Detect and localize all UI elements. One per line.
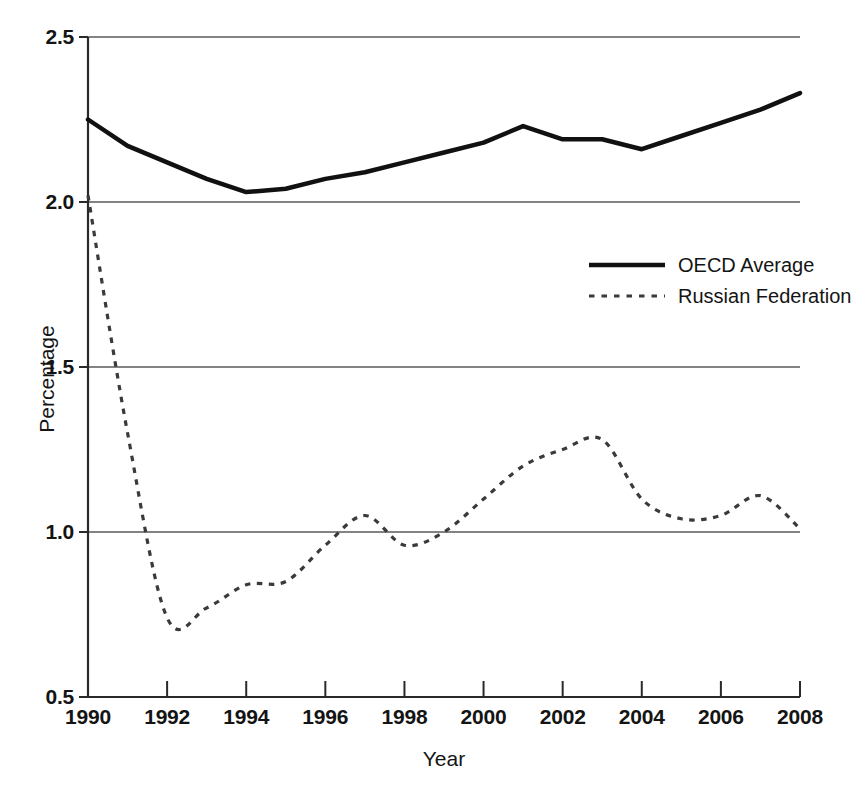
x-tick-label: 1998 xyxy=(381,705,427,729)
x-tick-label: 1990 xyxy=(65,705,111,729)
x-tick-label: 2006 xyxy=(698,705,744,729)
x-tick-label: 1994 xyxy=(223,705,269,729)
x-tick-label: 2002 xyxy=(540,705,586,729)
y-tick-label: 2.0 xyxy=(0,190,74,214)
y-tick-label: 0.5 xyxy=(0,685,74,709)
x-tick-label: 2000 xyxy=(461,705,507,729)
x-axis-title: Year xyxy=(88,747,800,771)
legend-label-oecd-average: OECD Average xyxy=(678,254,814,277)
x-tick-label: 1992 xyxy=(144,705,190,729)
legend-label-russian-federation: Russian Federation xyxy=(678,285,851,308)
x-tick-label: 2004 xyxy=(619,705,665,729)
y-tick-label: 2.5 xyxy=(0,25,74,49)
x-tick-label: 1996 xyxy=(302,705,348,729)
x-tick-label: 2008 xyxy=(777,705,823,729)
series-line-oecd-average xyxy=(88,93,800,192)
legend-line-samples xyxy=(589,265,665,296)
y-axis-title: Percentage xyxy=(35,299,59,459)
data-series-layer xyxy=(88,93,800,629)
y-tick-label: 1.0 xyxy=(0,520,74,544)
